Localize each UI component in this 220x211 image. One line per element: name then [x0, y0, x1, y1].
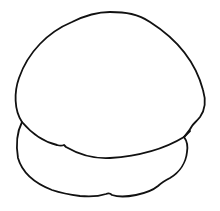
top-dome-outline	[16, 12, 205, 158]
sketch-graphic	[0, 0, 220, 211]
drawing-canvas: line drawing of two stacked rounded shap…	[0, 0, 220, 211]
bottom-base-outline	[17, 122, 187, 197]
